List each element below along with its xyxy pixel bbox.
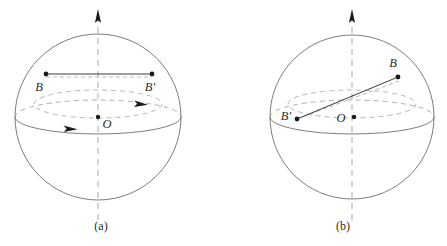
point-b-dot-a [44,72,49,77]
point-b-prime-dot-a [150,72,155,77]
center-label-b: O [336,111,345,125]
figure-root: B B' O (a) [0,0,447,246]
point-b-prime-label-a: B' [145,80,156,94]
point-b-prime-label-b: B' [281,109,292,123]
point-b-prime-dot-b [295,117,300,122]
panel-caption-a: (a) [94,219,107,233]
panel-a: B B' O (a) [15,9,181,233]
point-b-label-b: B [389,56,397,70]
panel-b: B B' O (b) [270,9,434,233]
latitude-direction-arrow-a [134,101,148,108]
center-dot-b [352,115,356,119]
chord-bb-prime-b [297,77,398,119]
center-dot-a [96,115,100,119]
center-label-a: O [102,117,111,131]
point-b-dot-b [396,75,401,80]
point-b-label-a: B [35,80,43,94]
sphere-diagram-svg: B B' O (a) [0,0,447,246]
panel-caption-b: (b) [336,219,350,233]
equator-direction-arrow-a [64,126,78,132]
